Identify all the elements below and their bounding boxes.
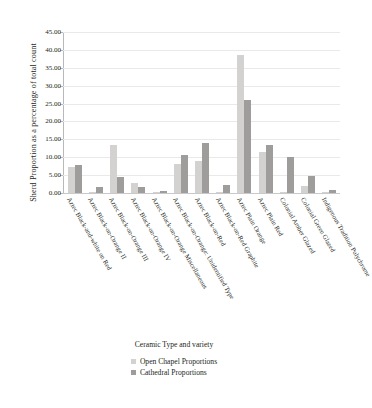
bar (216, 192, 223, 193)
x-tick-label: Aztec Black-on-Orange IV (130, 196, 172, 262)
bar (117, 177, 124, 193)
x-tick-label: Aztec Black-on-Orange III (108, 196, 150, 262)
bar (329, 190, 336, 193)
legend-item[interactable]: Open Chapel Proportions (131, 357, 217, 366)
x-tick-label: Aztec Black-on-Orange II (87, 196, 128, 260)
bar (96, 187, 103, 193)
bar-group (255, 32, 276, 193)
y-tick-label: 25.00 (45, 100, 61, 108)
x-tick-label: Aztec Black-on-Red Graphite (215, 196, 261, 269)
bar-groups (64, 32, 340, 193)
bar (322, 192, 329, 193)
bar (110, 145, 117, 193)
bar-group (85, 32, 106, 193)
legend-title: Ceramic Type and variety (0, 340, 348, 349)
bar-group (191, 32, 212, 193)
bar (181, 155, 188, 193)
bar (174, 164, 181, 193)
bar (75, 165, 82, 193)
bar (308, 176, 315, 193)
legend-label: Open Chapel Proportions (140, 357, 217, 366)
y-tick-label: 5.00 (49, 171, 61, 179)
y-tick-label: 40.00 (45, 46, 61, 54)
bar (195, 161, 202, 193)
bar (259, 152, 266, 193)
bar-group (213, 32, 234, 193)
bar (223, 185, 230, 193)
bar (138, 187, 145, 193)
bar (202, 143, 209, 193)
bar (280, 192, 287, 193)
bar (68, 167, 75, 193)
bar-group (170, 32, 191, 193)
y-tick-label: 10.00 (45, 153, 61, 161)
y-tick-label: 0.00 (49, 189, 61, 197)
bar-group (64, 32, 85, 193)
bar (266, 145, 273, 193)
x-axis-labels: Aztec Black-and-white on RedAztec Black-… (64, 196, 341, 326)
legend-swatch-icon (131, 359, 136, 364)
bar (237, 55, 244, 193)
legend-swatch-icon (131, 370, 136, 375)
bar-group (149, 32, 170, 193)
bar (89, 192, 96, 193)
bar-group (298, 32, 319, 193)
y-tick-label: 20.00 (45, 117, 61, 125)
y-axis-title: Sherd Proportion as a percentage of tota… (29, 28, 38, 218)
bar-group (319, 32, 340, 193)
bar (160, 191, 167, 193)
bar-group (234, 32, 255, 193)
gridline (63, 193, 340, 194)
bar (153, 192, 160, 193)
bar-group (276, 32, 297, 193)
y-tick-label: 45.00 (45, 28, 61, 36)
y-tick-label: 35.00 (45, 64, 61, 72)
bar (287, 157, 294, 193)
bar-group (106, 32, 127, 193)
legend-label: Cathedral Proportions (140, 368, 207, 377)
legend-item[interactable]: Cathedral Proportions (131, 368, 217, 377)
legend: Ceramic Type and variety Open Chapel Pro… (0, 340, 348, 379)
bar-group (128, 32, 149, 193)
bar (244, 100, 251, 193)
y-tick-label: 30.00 (45, 82, 61, 90)
bar (301, 186, 308, 194)
bar (131, 183, 138, 193)
y-tick-label: 15.00 (45, 135, 61, 143)
plot-area: 0.005.0010.0015.0020.0025.0030.0035.0040… (63, 32, 340, 193)
legend-items: Open Chapel ProportionsCathedral Proport… (131, 355, 217, 379)
